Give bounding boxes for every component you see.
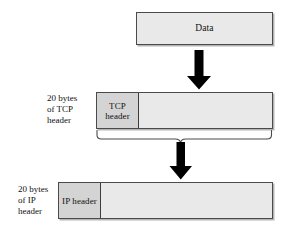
- ip-header-side-note: 20 bytes of IP header: [18, 184, 60, 217]
- ip-header-cell: IP header: [59, 183, 101, 218]
- down-arrow-data-to-tcp: [186, 50, 212, 90]
- down-arrow-tcp-to-ip: [169, 142, 193, 180]
- tcp-segment-row: TCP header: [96, 92, 273, 129]
- figure-canvas: Data 20 bytes of TCP header TCP header 2…: [0, 0, 287, 231]
- tcp-header-label: TCP header: [97, 100, 138, 120]
- data-block-label: Data: [137, 24, 272, 34]
- tcp-header-cell: TCP header: [97, 93, 139, 128]
- ip-header-label: IP header: [59, 195, 100, 205]
- tcp-header-side-note: 20 bytes of TCP header: [47, 93, 95, 126]
- ip-datagram-row: IP header: [58, 182, 273, 219]
- data-block: Data: [136, 12, 273, 45]
